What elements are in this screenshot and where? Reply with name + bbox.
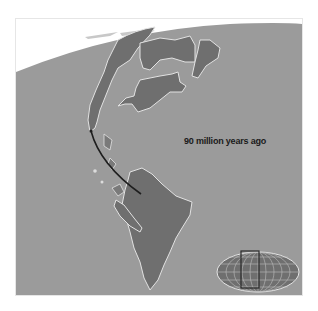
arctic-island xyxy=(85,32,118,39)
island xyxy=(101,181,104,184)
path-start-marker xyxy=(89,129,92,132)
paleogeographic-map xyxy=(0,0,318,311)
island xyxy=(93,169,97,173)
map-caption: 90 million years ago xyxy=(184,136,266,146)
inset-globe xyxy=(217,251,299,292)
